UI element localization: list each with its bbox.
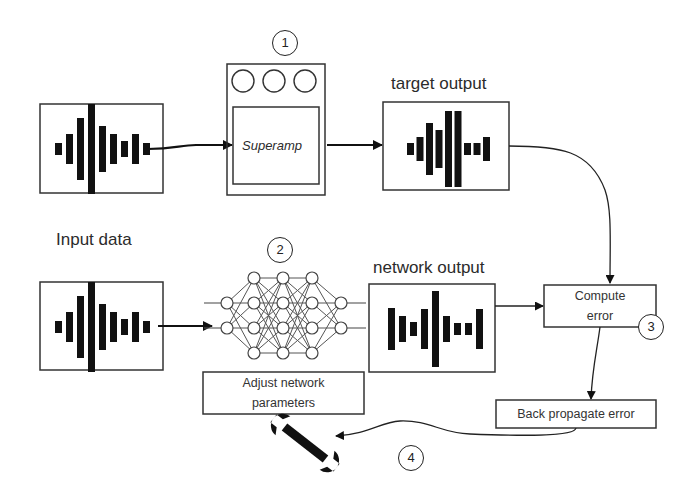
step-4-badge: 4 <box>398 445 424 471</box>
target-output-label: target output <box>391 74 486 94</box>
input-data-label: Input data <box>56 230 132 250</box>
network-output-label: network output <box>373 258 485 278</box>
compute-error-text: Compute error <box>544 288 656 324</box>
adjust-parameters-text: Adjust network parameters <box>203 375 364 411</box>
step-2-badge: 2 <box>267 237 293 263</box>
waveform-icon <box>55 104 150 194</box>
knob-icon <box>263 70 285 92</box>
neural-network-icon <box>204 272 366 359</box>
knob-icon <box>232 70 254 92</box>
superamp-label: Superamp <box>242 138 302 153</box>
superamp-pedal <box>227 64 325 195</box>
arrow-input-to-amp <box>148 145 232 149</box>
arrow-compute-to-backprop <box>591 327 600 399</box>
input-waveform-box-bottom <box>40 282 163 372</box>
step-3-badge: 3 <box>638 314 664 340</box>
wrench-icon <box>266 409 344 477</box>
target-output-box <box>383 102 509 190</box>
waveform-icon <box>388 291 483 367</box>
waveform-icon <box>55 282 150 372</box>
arrow-target-to-compute-error <box>509 146 610 283</box>
knob-icon <box>294 70 316 92</box>
input-waveform-box-top <box>40 104 163 194</box>
waveform-icon <box>407 111 490 187</box>
step-1-badge: 1 <box>272 30 298 56</box>
network-output-box <box>369 284 495 372</box>
back-propagate-text: Back propagate error <box>496 406 656 422</box>
